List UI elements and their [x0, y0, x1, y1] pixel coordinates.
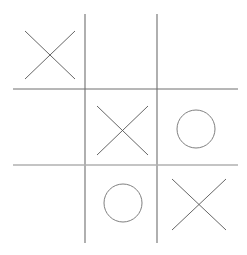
- cell-middle-center[interactable]: [85, 89, 157, 165]
- cell-bottom-left[interactable]: [13, 165, 85, 243]
- cell-bottom-right[interactable]: [157, 165, 238, 243]
- tic-tac-toe-board: [0, 0, 247, 255]
- cell-top-right[interactable]: [157, 14, 238, 89]
- board-canvas: [0, 0, 247, 255]
- cell-top-center[interactable]: [85, 14, 157, 89]
- cell-top-left[interactable]: [13, 14, 85, 89]
- cell-middle-left[interactable]: [13, 89, 85, 165]
- cell-bottom-center[interactable]: [85, 165, 157, 243]
- cell-middle-right[interactable]: [157, 89, 238, 165]
- cell-hit-areas[interactable]: [13, 14, 238, 243]
